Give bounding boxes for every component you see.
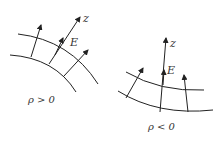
outer-surface-curve [18,34,98,84]
lower-surface-curve [118,91,213,111]
normal-arrow-3 [64,50,88,76]
upper-surface-curve [126,72,204,90]
z-axis-arrow [160,38,166,112]
z-axis-label: z [82,12,89,25]
left-panel: z E ρ > 0 [10,12,98,105]
field-label: E [166,64,175,77]
panel-caption: ρ < 0 [147,121,176,132]
z-axis-label: z [169,37,176,50]
normal-arrow-3 [184,75,188,112]
normal-arrow-1 [31,25,41,57]
field-label: E [69,36,78,49]
panel-caption: ρ > 0 [27,94,56,105]
field-arrow-marker [55,38,63,55]
curvature-diagram: z E ρ > 0 z E ρ < 0 [0,0,222,144]
normal-arrow-1 [126,68,143,98]
right-panel: z E ρ < 0 [118,37,213,132]
